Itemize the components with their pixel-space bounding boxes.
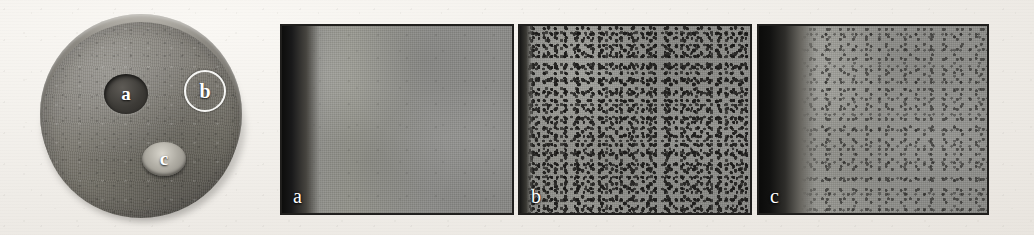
specimen-site-a: a: [104, 74, 148, 114]
specimen-site-b-label: b: [199, 80, 210, 103]
panel-a-edge-band: [282, 26, 326, 213]
panel-b-porosity-fine: [520, 26, 750, 213]
panel-a-label: a: [293, 186, 302, 206]
micrograph-panel-b: b: [518, 24, 752, 215]
specimen-site-a-label: a: [121, 83, 131, 105]
panel-c-edge-band: [759, 26, 821, 213]
disc-face: [42, 22, 240, 218]
micrograph-panel-c: c: [757, 24, 989, 215]
panel-c-label: c: [770, 186, 779, 206]
figure-canvas: a b c a b c: [0, 0, 1034, 235]
specimen-site-b: b: [184, 70, 226, 112]
specimen-site-c: c: [142, 142, 186, 176]
specimen-site-c-label: c: [160, 148, 168, 170]
micrograph-panel-a: a: [280, 24, 514, 215]
specimen-photo: a b c: [36, 12, 250, 224]
panel-b-label: b: [531, 186, 541, 206]
